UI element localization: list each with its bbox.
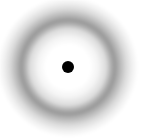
gray-ring — [0, 0, 147, 140]
center-dot — [62, 61, 74, 73]
